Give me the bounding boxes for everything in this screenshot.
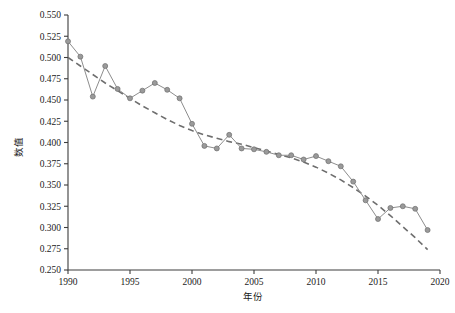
data-point-marker [165,87,170,92]
data-point-marker [338,164,343,169]
data-point-marker [103,64,108,69]
y-tick-label: 0.375 [40,159,62,169]
y-tick-label: 0.400 [40,138,62,148]
data-point-marker [227,132,232,137]
data-point-marker [115,86,120,91]
data-point-marker [363,198,368,203]
x-axis-title: 年份 [243,291,263,302]
data-point-marker [90,94,95,99]
data-point-marker [276,153,281,158]
x-tick-label: 2020 [431,277,450,287]
data-point-marker [289,153,294,158]
axis-lines [68,15,440,270]
x-axis-ticks: 1990199520002005201020152020 [59,270,450,287]
x-tick-label: 1995 [121,277,140,287]
data-point-marker [351,179,356,184]
data-point-marker [202,143,207,148]
data-point-marker [239,146,244,151]
x-tick-label: 2000 [183,277,202,287]
y-tick-label: 0.325 [40,202,62,212]
y-tick-label: 0.250 [40,265,62,275]
data-point-marker [190,121,195,126]
data-point-marker [301,157,306,162]
data-point-marker [326,159,331,164]
y-tick-label: 0.475 [40,74,62,84]
data-point-marker [252,147,257,152]
y-tick-label: 0.350 [40,180,62,190]
data-point-marker [177,96,182,101]
data-point-marker [314,154,319,159]
y-tick-label: 0.500 [40,53,62,63]
y-tick-label: 0.275 [40,244,62,254]
x-tick-label: 2005 [245,277,264,287]
data-point-marker [413,206,418,211]
data-point-marker [388,205,393,210]
x-tick-label: 2015 [369,277,388,287]
y-tick-label: 0.450 [40,95,62,105]
y-axis-title: 数值 [13,137,24,157]
y-tick-label: 0.425 [40,117,62,127]
y-tick-label: 0.550 [40,10,62,20]
data-point-marker [66,39,71,44]
trend-line-series [68,58,428,250]
data-point-marker [400,204,405,209]
data-point-marker [140,88,145,93]
y-axis-ticks: 0.2500.2750.3000.3250.3500.3750.4000.425… [40,10,68,275]
data-point-marker [264,149,269,154]
y-tick-label: 0.525 [40,32,62,42]
x-tick-label: 1990 [59,277,78,287]
data-point-marker [128,96,133,101]
x-tick-label: 2010 [307,277,326,287]
y-tick-label: 0.300 [40,223,62,233]
data-point-marker [214,146,219,151]
data-point-marker [152,81,157,86]
data-point-marker [425,228,430,233]
data-point-marker [78,54,83,59]
chart-figure: 0.2500.2750.3000.3250.3500.3750.4000.425… [0,0,455,313]
data-point-marker [376,217,381,222]
line-chart: 0.2500.2750.3000.3250.3500.3750.4000.425… [0,0,455,313]
